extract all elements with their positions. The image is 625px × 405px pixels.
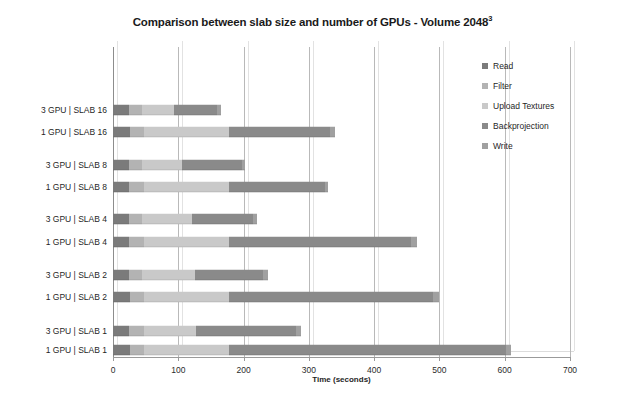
chart-legend: ReadFilterUpload TexturesBackprojectionW…	[482, 56, 612, 156]
bar-segment-write[interactable]	[325, 182, 329, 193]
bar-segment-write[interactable]	[433, 292, 440, 303]
bar-segment-upload-textures[interactable]	[144, 345, 229, 356]
bar-1-gpu-slab-4[interactable]	[113, 237, 417, 248]
bar-segment-write[interactable]	[296, 326, 301, 337]
bar-segment-upload-textures[interactable]	[144, 292, 229, 303]
x-tick-400	[374, 357, 375, 361]
bar-segment-backprojection[interactable]	[195, 270, 264, 281]
gridline-400	[374, 47, 375, 357]
bar-segment-write[interactable]	[217, 105, 220, 116]
bar-segment-backprojection[interactable]	[229, 237, 412, 248]
legend-swatch-icon	[482, 103, 488, 109]
bar-segment-read[interactable]	[113, 182, 129, 193]
bar-segment-backprojection[interactable]	[229, 127, 330, 138]
x-tick-label-200: 200	[236, 365, 250, 375]
bar-segment-filter[interactable]	[129, 326, 143, 337]
y-axis-label-1-gpu-slab-8: 1 GPU | SLAB 8	[46, 182, 107, 192]
gridline-backwall-100	[182, 41, 183, 351]
legend-item-backprojection[interactable]: Backprojection	[482, 116, 612, 136]
bar-segment-read[interactable]	[113, 326, 129, 337]
bar-segment-read[interactable]	[113, 270, 129, 281]
gridline-backwall-300	[313, 41, 314, 351]
bar-segment-filter[interactable]	[129, 237, 143, 248]
bar-segment-read[interactable]	[113, 105, 129, 116]
bar-segment-upload-textures[interactable]	[144, 237, 229, 248]
y-axis-label-3-gpu-slab-2: 3 GPU | SLAB 2	[46, 270, 107, 280]
x-tick-700	[570, 357, 571, 361]
bar-segment-upload-textures[interactable]	[144, 127, 229, 138]
bar-segment-filter[interactable]	[129, 182, 143, 193]
bar-segment-backprojection[interactable]	[229, 182, 325, 193]
bar-3-gpu-slab-1[interactable]	[113, 326, 301, 337]
bar-segment-upload-textures[interactable]	[142, 270, 194, 281]
legend-swatch-icon	[482, 143, 488, 149]
bar-segment-write[interactable]	[330, 127, 335, 138]
bar-segment-upload-textures[interactable]	[142, 105, 173, 116]
bar-segment-filter[interactable]	[130, 127, 144, 138]
bar-1-gpu-slab-1[interactable]	[113, 345, 511, 356]
gridline-100	[178, 47, 179, 357]
bar-segment-filter[interactable]	[130, 345, 144, 356]
legend-item-write[interactable]: Write	[482, 136, 612, 156]
bar-segment-backprojection[interactable]	[192, 214, 253, 225]
bar-segment-write[interactable]	[263, 270, 268, 281]
bar-segment-upload-textures[interactable]	[142, 160, 181, 171]
gridline-backwall-200	[248, 41, 249, 351]
y-axis-label-3-gpu-slab-4: 3 GPU | SLAB 4	[46, 214, 107, 224]
legend-label: Upload Textures	[493, 101, 554, 111]
bar-segment-write[interactable]	[242, 160, 246, 171]
x-tick-label-300: 300	[302, 365, 316, 375]
x-tick-300	[309, 357, 310, 361]
bar-segment-backprojection[interactable]	[229, 345, 506, 356]
bar-3-gpu-slab-16[interactable]	[113, 105, 221, 116]
gridline-backwall-500	[443, 41, 444, 351]
bar-segment-upload-textures[interactable]	[144, 182, 229, 193]
bar-1-gpu-slab-16[interactable]	[113, 127, 335, 138]
bar-1-gpu-slab-2[interactable]	[113, 292, 439, 303]
bar-segment-filter[interactable]	[129, 214, 143, 225]
y-axis-label-1-gpu-slab-16: 1 GPU | SLAB 16	[41, 127, 107, 137]
bar-3-gpu-slab-8[interactable]	[113, 160, 245, 171]
x-tick-label-100: 100	[171, 365, 185, 375]
bar-segment-backprojection[interactable]	[229, 292, 433, 303]
x-axis-title: Time (seconds)	[113, 375, 570, 384]
bar-segment-write[interactable]	[411, 237, 416, 248]
x-tick-100	[178, 357, 179, 361]
legend-item-upload-textures[interactable]: Upload Textures	[482, 96, 612, 116]
bar-segment-upload-textures[interactable]	[144, 326, 196, 337]
x-tick-600	[505, 357, 506, 361]
bar-segment-read[interactable]	[113, 292, 130, 303]
bar-segment-read[interactable]	[113, 214, 129, 225]
bar-segment-write[interactable]	[253, 214, 256, 225]
chart-title-text: Comparison between slab size and number …	[133, 16, 489, 28]
y-axis-label-3-gpu-slab-1: 3 GPU | SLAB 1	[46, 326, 107, 336]
bar-segment-filter[interactable]	[129, 160, 143, 171]
bar-segment-backprojection[interactable]	[182, 160, 242, 171]
legend-item-read[interactable]: Read	[482, 56, 612, 76]
gridline-500	[439, 47, 440, 357]
y-axis-label-3-gpu-slab-16: 3 GPU | SLAB 16	[41, 105, 107, 115]
bar-segment-filter[interactable]	[129, 105, 143, 116]
legend-swatch-icon	[482, 63, 488, 69]
bar-segment-filter[interactable]	[130, 292, 144, 303]
chart-title-superscript: 3	[488, 14, 492, 23]
gridline-200	[244, 47, 245, 357]
x-tick-label-600: 600	[498, 365, 512, 375]
bar-segment-read[interactable]	[113, 237, 129, 248]
bar-segment-backprojection[interactable]	[196, 326, 296, 337]
bar-segment-write[interactable]	[506, 345, 511, 356]
legend-swatch-icon	[482, 123, 488, 129]
legend-item-filter[interactable]: Filter	[482, 76, 612, 96]
bar-3-gpu-slab-4[interactable]	[113, 214, 257, 225]
x-tick-500	[439, 357, 440, 361]
bar-segment-read[interactable]	[113, 160, 129, 171]
y-axis-label-1-gpu-slab-4: 1 GPU | SLAB 4	[46, 237, 107, 247]
bar-1-gpu-slab-8[interactable]	[113, 182, 328, 193]
bar-segment-upload-textures[interactable]	[142, 214, 192, 225]
bar-segment-filter[interactable]	[129, 270, 143, 281]
bar-segment-read[interactable]	[113, 127, 130, 138]
bar-segment-backprojection[interactable]	[174, 105, 218, 116]
bar-segment-read[interactable]	[113, 345, 130, 356]
bar-3-gpu-slab-2[interactable]	[113, 270, 268, 281]
legend-swatch-icon	[482, 83, 488, 89]
